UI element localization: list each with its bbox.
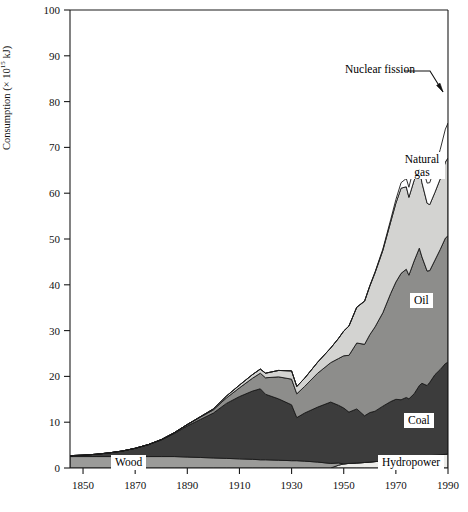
x-tick-label: 1850: [72, 479, 95, 491]
y-axis-title-exponent: 15: [0, 61, 7, 68]
y-tick-label: 70: [49, 141, 61, 153]
y-tick-label: 60: [49, 187, 61, 199]
y-tick-label: 10: [49, 416, 61, 428]
chart-plot-area: 0102030405060708090100 18501870189019101…: [0, 0, 468, 512]
y-tick-label: 40: [49, 279, 61, 291]
label-natural-gas: Natural gas: [399, 152, 445, 179]
label-wood: Wood: [111, 455, 146, 470]
x-tick-label: 1950: [333, 479, 356, 491]
y-tick-label: 80: [49, 96, 61, 108]
y-axis-title-suffix: kJ): [1, 46, 12, 61]
y-tick-label: 100: [44, 4, 61, 16]
x-tick-label: 1930: [281, 479, 304, 491]
label-coal: Coal: [404, 413, 434, 428]
x-tick-label: 1910: [228, 479, 251, 491]
label-oil: Oil: [410, 293, 433, 308]
y-tick-label: 50: [49, 233, 61, 245]
label-nuclear-fission: Nuclear fission: [345, 63, 415, 75]
x-tick-label: 1990: [437, 479, 460, 491]
y-axis-title: Consumption (× 1015 kJ): [0, 0, 13, 150]
label-natural-gas-line1: Natural: [405, 153, 439, 165]
x-tick-label: 1970: [385, 479, 408, 491]
y-axis-title-prefix: Consumption (× 10: [1, 68, 12, 150]
label-hydropower: Hydropower: [378, 455, 444, 470]
x-tick-label: 1890: [176, 479, 199, 491]
label-natural-gas-line2: gas: [414, 166, 429, 178]
y-tick-label: 20: [49, 370, 61, 382]
energy-consumption-chart-figure: Consumption (× 1015 kJ) 0102030405060708…: [0, 0, 468, 512]
y-tick-label: 0: [55, 462, 61, 474]
y-tick-label: 30: [49, 325, 61, 337]
y-tick-label: 90: [49, 50, 61, 62]
x-tick-label: 1870: [124, 479, 147, 491]
